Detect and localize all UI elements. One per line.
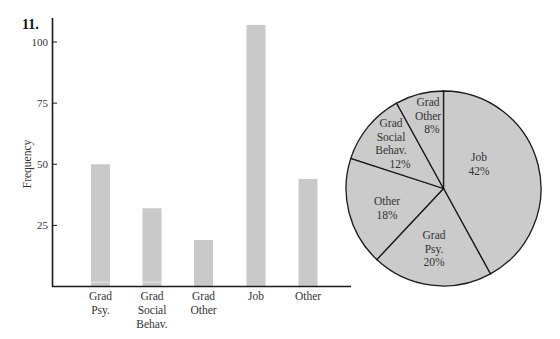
bar-chart: Frequency 255075100 GradPsy.GradSocialBe… [21,18,351,330]
bar-base-strip [91,282,110,284]
x-category-label: Grad [141,290,164,302]
x-category-label: Other [190,304,216,316]
figure: 11. Frequency 255075100 GradPsy.GradSoci… [0,0,560,339]
bar-grad-social-behav [143,208,162,286]
y-tick-label: 25 [37,219,49,231]
x-category-label: Grad [192,290,215,302]
pie-label: Grad [380,117,403,129]
y-axis-title: Frequency [21,139,34,188]
pie-label: Social [377,131,406,143]
x-category-label: Other [295,290,321,302]
pie-label: Other [374,195,400,207]
bar-grad-other [194,240,213,286]
pie-label: 8% [424,123,440,135]
x-axis-labels: GradPsy.GradSocialBehav.GradOtherJobOthe… [89,290,321,330]
pie-label: Other [415,110,441,122]
pie-label: Job [471,151,487,163]
y-tick-label: 100 [32,36,49,48]
bar-job [247,25,266,287]
x-category-label: Psy. [91,304,110,317]
bars [91,25,318,287]
x-category-label: Social [138,304,167,316]
figure-number: 11. [22,17,39,32]
y-tick-label: 50 [37,158,49,170]
x-category-label: Job [248,290,264,302]
pie-label: 18% [376,209,398,221]
y-tick-label: 75 [37,97,49,109]
pie-label: Psy. [425,243,444,256]
pie-label: Grad [423,229,446,241]
pie-label: 20% [423,256,445,268]
bar-other [299,179,318,287]
bar-grad-psy [91,164,110,286]
pie-label: Grad [417,96,440,108]
pie-label: 42% [468,165,490,177]
pie-chart: Job42%GradPsy.20%Other18%GradSocialBehav… [346,91,541,286]
x-category-label: Behav. [136,318,168,330]
x-category-label: Grad [89,290,112,302]
pie-label: 12% [389,158,411,170]
pie-label: Behav. [375,144,407,156]
bar-base-strip [143,282,162,284]
